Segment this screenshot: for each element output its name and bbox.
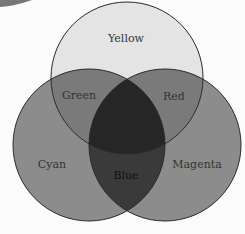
label-blue: Blue bbox=[113, 169, 138, 182]
corner-shape bbox=[0, 0, 32, 7]
label-yellow: Yellow bbox=[108, 32, 144, 45]
label-magenta: Magenta bbox=[172, 158, 221, 171]
venn-diagram: Yellow Green Red Cyan Magenta Blue bbox=[0, 0, 245, 234]
label-green: Green bbox=[62, 89, 96, 102]
label-cyan: Cyan bbox=[38, 158, 66, 171]
label-red: Red bbox=[163, 90, 185, 103]
